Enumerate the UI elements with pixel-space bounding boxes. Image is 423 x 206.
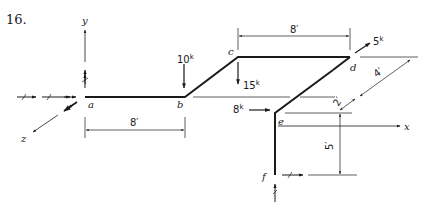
member-d-joint <box>333 57 350 70</box>
member-a-b-c-d <box>85 57 350 97</box>
load-unit: k <box>239 103 244 111</box>
frame-diagram: 16. y z x a <box>0 0 423 206</box>
x-axis: x <box>278 121 410 132</box>
dimension-c-d: 8′ <box>238 24 350 50</box>
z-axis: z <box>20 115 58 144</box>
z-axis-label: z <box>20 133 27 144</box>
load-10k-at-b: 10k <box>177 53 195 88</box>
load-unit: k <box>190 53 195 61</box>
load-unit: k <box>256 79 261 87</box>
node-label-c: c <box>228 46 234 57</box>
node-label-f: f <box>261 171 268 182</box>
dimension-2ft-diagonal: 2′ <box>331 94 355 110</box>
node-label-e: e <box>278 116 284 127</box>
problem-number: 16. <box>6 12 27 27</box>
load-8k-at-e: 8k <box>233 103 270 115</box>
dimension-label: 4′ <box>371 65 385 79</box>
svg-text:8k: 8k <box>233 103 244 115</box>
support-f-reactions <box>273 172 303 202</box>
dimension-label: 5′ <box>324 141 335 150</box>
dimension-a-b: 8′ <box>85 117 185 138</box>
svg-text:15k: 15k <box>243 79 261 91</box>
load-15k-at-c: 15k <box>238 62 261 91</box>
dimension-4ft-diagonal: 4′ <box>360 60 410 96</box>
dimension-label: 2′ <box>331 94 345 108</box>
frame-members <box>85 57 350 175</box>
svg-text:10k: 10k <box>177 53 195 65</box>
node-label-b: b <box>177 99 183 110</box>
svg-text:5k: 5k <box>373 35 384 47</box>
load-5k-at-d: 5k <box>355 35 384 53</box>
load-value: 10 <box>177 54 190 65</box>
x-axis-label: x <box>404 121 410 132</box>
dimension-label: 8′ <box>130 117 139 128</box>
dimension-label: 8′ <box>290 24 299 35</box>
support-a-reactions <box>17 70 88 111</box>
dimension-e-f: 5′ <box>324 114 340 174</box>
load-unit: k <box>379 35 384 43</box>
y-axis-label: y <box>81 15 88 26</box>
load-value: 15 <box>243 80 256 91</box>
node-label-a: a <box>88 99 94 110</box>
y-axis: y <box>81 15 88 62</box>
node-label-d: d <box>350 62 356 73</box>
